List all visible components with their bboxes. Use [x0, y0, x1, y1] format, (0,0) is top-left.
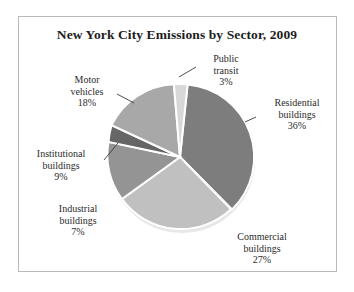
- pie-label-industrial-percent: 7%: [42, 226, 114, 238]
- pie-label-institutional-line2: buildings: [19, 160, 103, 172]
- pie-label-industrial-line2: buildings: [42, 215, 114, 227]
- chart-page: New York City Emissions by Sector, 2009: [0, 0, 354, 292]
- pie-label-residential-line2: buildings: [258, 109, 336, 121]
- pie-label-public-transit-percent: 3%: [196, 76, 256, 88]
- pie-slices: [107, 84, 254, 229]
- leader-line-public-transit: [179, 67, 196, 77]
- pie-label-institutional-line1: Institutional: [19, 148, 103, 160]
- pie-label-motor-line2: vehicles: [52, 86, 122, 98]
- pie-label-residential-percent: 36%: [258, 120, 336, 132]
- pie-label-commercial-line1: Commercial: [220, 231, 304, 243]
- pie-label-commercial-line2: buildings: [220, 243, 304, 255]
- pie-label-public-transit-line2: transit: [196, 65, 256, 77]
- pie-label-industrial-buildings: Industrial buildings 7%: [42, 203, 114, 238]
- pie-label-motor-vehicles: Motor vehicles 18%: [52, 74, 122, 109]
- pie-label-commercial-buildings: Commercial buildings 27%: [220, 231, 304, 266]
- pie-label-motor-percent: 18%: [52, 97, 122, 109]
- pie-label-institutional-percent: 9%: [19, 171, 103, 183]
- pie-label-public-transit-line1: Public: [196, 53, 256, 65]
- pie-label-residential-line1: Residential: [258, 97, 336, 109]
- pie-label-institutional-buildings: Institutional buildings 9%: [19, 148, 103, 183]
- pie-label-residential-buildings: Residential buildings 36%: [258, 97, 336, 132]
- pie-label-motor-line1: Motor: [52, 74, 122, 86]
- pie-label-industrial-line1: Industrial: [42, 203, 114, 215]
- pie-label-public-transit: Public transit 3%: [196, 53, 256, 88]
- leader-line-residential: [245, 117, 256, 122]
- pie-label-commercial-percent: 27%: [220, 254, 304, 266]
